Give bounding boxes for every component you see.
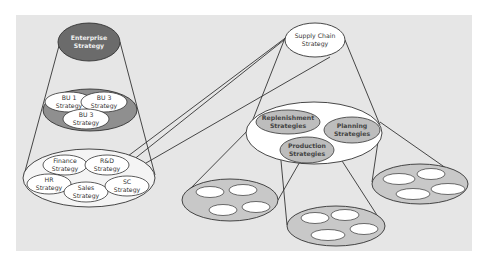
enterprise-label-line2: Strategy (74, 42, 104, 50)
svg-text:SC: SC (123, 178, 131, 185)
leaf-node (331, 210, 359, 221)
svg-text:Strategy: Strategy (91, 102, 118, 110)
svg-text:Strategies: Strategies (270, 122, 307, 130)
svg-text:Planning: Planning (337, 122, 368, 130)
supply-chain-sub-group: Replenishment Strategies Planning Strate… (246, 102, 382, 164)
sc-strategy-node: SC Strategy (105, 176, 149, 196)
svg-text:Replenishment: Replenishment (262, 114, 314, 122)
enterprise-strategy-node: Enterprise Strategy (58, 23, 120, 61)
svg-text:R&D: R&D (100, 157, 114, 164)
svg-text:Strategy: Strategy (73, 119, 100, 127)
svg-text:Strategy: Strategy (73, 192, 100, 200)
strategy-diagram: Enterprise Strategy BU 1 Strategy BU 3 S… (0, 0, 490, 264)
planning-leaf-group (372, 164, 468, 204)
svg-text:Production: Production (288, 142, 326, 149)
supply-chain-label-line2: Strategy (302, 40, 329, 48)
finance-strategy-node: Finance Strategy (43, 155, 87, 175)
sales-strategy-node: Sales Strategy (64, 182, 108, 202)
leaf-node (311, 230, 345, 241)
svg-text:Strategy: Strategy (94, 165, 121, 173)
leaf-node (417, 169, 445, 180)
leaf-node (301, 213, 329, 224)
svg-text:Strategy: Strategy (52, 165, 79, 173)
replenishment-leaf-group (182, 179, 278, 221)
production-leaf-group (287, 206, 385, 246)
leaf-node (383, 174, 415, 185)
supply-chain-strategy-node: Supply Chain Strategy (285, 23, 345, 57)
production-strategies-node: Production Strategies (280, 137, 334, 163)
svg-text:Sales: Sales (78, 184, 94, 191)
svg-text:Strategy: Strategy (114, 186, 141, 194)
leaf-node (229, 185, 257, 196)
leaf-node (431, 184, 465, 195)
rnd-strategy-node: R&D Strategy (85, 155, 129, 175)
svg-text:BU 3: BU 3 (79, 111, 94, 118)
leaf-node (396, 189, 430, 200)
planning-strategies-node: Planning Strategies (324, 117, 380, 143)
svg-text:HR: HR (45, 176, 55, 183)
leaf-node (209, 205, 237, 216)
svg-text:Strategy: Strategy (56, 102, 83, 110)
leaf-node (242, 202, 270, 213)
functional-strategy-group: Finance Strategy R&D Strategy HR Strateg… (23, 149, 155, 207)
leaf-node (196, 187, 224, 198)
svg-text:BU 3: BU 3 (97, 94, 112, 101)
replenishment-strategies-node: Replenishment Strategies (256, 110, 320, 134)
business-unit-group: BU 1 Strategy BU 3 Strategy BU 3 Strateg… (43, 89, 137, 131)
leaf-node (350, 224, 378, 235)
bu-node-3: BU 3 Strategy (63, 109, 109, 129)
enterprise-label-line1: Enterprise (71, 34, 107, 42)
svg-text:Finance: Finance (53, 157, 77, 164)
svg-text:Strategy: Strategy (36, 184, 63, 192)
svg-text:BU 1: BU 1 (62, 94, 77, 101)
svg-text:Strategies: Strategies (289, 150, 326, 158)
svg-text:Strategies: Strategies (334, 130, 371, 138)
supply-chain-label-line1: Supply Chain (295, 32, 336, 40)
